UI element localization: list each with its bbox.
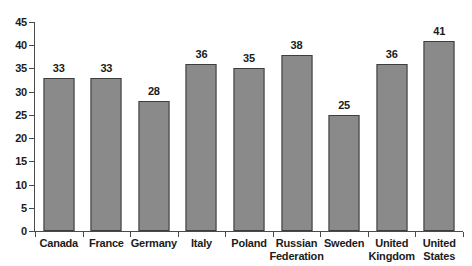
bar-group: 36 bbox=[178, 22, 226, 231]
bar-value-label: 36 bbox=[386, 49, 398, 60]
bar-value-label: 35 bbox=[243, 53, 255, 64]
y-axis-tick-mark bbox=[29, 185, 34, 186]
x-axis-tick-mark bbox=[178, 232, 179, 237]
y-axis-tick-label: 10 bbox=[1, 179, 27, 190]
x-axis-category-label: Poland bbox=[231, 237, 266, 250]
y-axis-tick-mark bbox=[29, 68, 34, 69]
y-axis-tick-label: 5 bbox=[1, 202, 27, 213]
x-axis-category-label: Sweden bbox=[324, 237, 364, 250]
x-axis-tick-mark bbox=[83, 232, 84, 237]
x-axis-tick-mark bbox=[35, 232, 36, 237]
bar-group: 41 bbox=[415, 22, 463, 231]
x-axis-tick-mark bbox=[463, 232, 464, 237]
bar-value-label: 33 bbox=[53, 63, 65, 74]
bar bbox=[376, 64, 407, 231]
category-label-line: Italy bbox=[191, 237, 212, 249]
x-axis-category-label: RussianFederation bbox=[269, 237, 323, 263]
x-axis-category-label: France bbox=[89, 237, 124, 250]
category-label-line: France bbox=[89, 237, 124, 249]
x-axis-tick-mark bbox=[130, 232, 131, 237]
y-axis-tick-mark bbox=[29, 115, 34, 116]
bar bbox=[329, 115, 360, 231]
category-label-line: Kingdom bbox=[369, 250, 415, 263]
bar-group: 33 bbox=[35, 22, 83, 231]
category-label-line: Sweden bbox=[324, 237, 364, 249]
y-axis-tick-mark bbox=[29, 22, 34, 23]
bar-group: 35 bbox=[225, 22, 273, 231]
bar bbox=[43, 78, 74, 231]
bar-group: 38 bbox=[273, 22, 321, 231]
y-axis-tick-label: 45 bbox=[1, 17, 27, 28]
y-axis-tick-label: 20 bbox=[1, 133, 27, 144]
y-axis-tick-mark bbox=[29, 92, 34, 93]
bar-value-label: 38 bbox=[291, 40, 303, 51]
x-axis-tick-mark bbox=[320, 232, 321, 237]
x-axis-line bbox=[34, 231, 463, 232]
y-axis-tick-mark bbox=[29, 231, 34, 232]
category-label-line: United bbox=[423, 237, 456, 249]
bar bbox=[91, 78, 122, 231]
category-label-line: United bbox=[375, 237, 408, 249]
x-axis-tick-mark bbox=[368, 232, 369, 237]
y-axis-tick-label: 25 bbox=[1, 109, 27, 120]
x-axis-category-labels: CanadaFranceGermanyItalyPolandRussianFed… bbox=[35, 237, 463, 266]
y-axis-tick-mark bbox=[29, 45, 34, 46]
bar-value-label: 25 bbox=[338, 100, 350, 111]
y-axis-tick-mark bbox=[29, 138, 34, 139]
bar bbox=[233, 68, 264, 231]
category-label-line: Federation bbox=[269, 250, 323, 263]
bar-group: 33 bbox=[83, 22, 131, 231]
y-axis-tick-label: 40 bbox=[1, 40, 27, 51]
y-axis: 454035302520151050 bbox=[0, 0, 28, 266]
bar bbox=[424, 41, 455, 231]
y-axis-tick-label: 35 bbox=[1, 63, 27, 74]
y-axis-tick-label: 15 bbox=[1, 156, 27, 167]
category-label-line: Germany bbox=[131, 237, 177, 249]
bar-chart: 454035302520151050 333328363538253641 Ca… bbox=[0, 0, 472, 266]
x-axis-tick-mark bbox=[415, 232, 416, 237]
y-axis-tick-mark bbox=[29, 161, 34, 162]
x-axis-category-label: UnitedStates bbox=[423, 237, 456, 263]
y-axis-tick-label: 30 bbox=[1, 86, 27, 97]
x-axis-tick-mark bbox=[273, 232, 274, 237]
x-axis-tick-mark bbox=[225, 232, 226, 237]
bar-group: 28 bbox=[130, 22, 178, 231]
plot-area: 333328363538253641 bbox=[35, 22, 463, 231]
bar-value-label: 41 bbox=[433, 26, 445, 37]
category-label-line: Russian bbox=[276, 237, 317, 249]
y-axis-tick-mark bbox=[29, 208, 34, 209]
x-axis-category-label: Italy bbox=[191, 237, 212, 250]
bar-value-label: 36 bbox=[196, 49, 208, 60]
bar-group: 25 bbox=[320, 22, 368, 231]
bar bbox=[138, 101, 169, 231]
category-label-line: Canada bbox=[39, 237, 78, 249]
bar-value-label: 28 bbox=[148, 86, 160, 97]
category-label-line: States bbox=[423, 250, 456, 263]
bar-group: 36 bbox=[368, 22, 416, 231]
category-label-line: Poland bbox=[231, 237, 266, 249]
x-axis-category-label: UnitedKingdom bbox=[369, 237, 415, 263]
y-axis-tick-label: 0 bbox=[1, 226, 27, 237]
bar bbox=[281, 55, 312, 231]
bar bbox=[186, 64, 217, 231]
x-axis-category-label: Germany bbox=[131, 237, 177, 250]
bar-value-label: 33 bbox=[100, 63, 112, 74]
x-axis-category-label: Canada bbox=[39, 237, 78, 250]
